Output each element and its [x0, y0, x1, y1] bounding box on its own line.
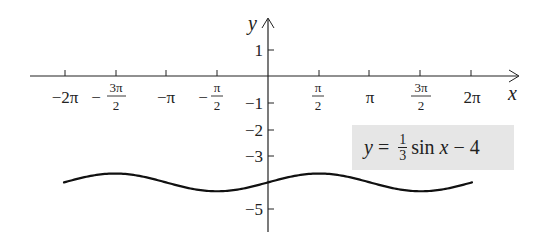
equation-y: y [364, 136, 373, 159]
y-tick-label: −3 [245, 147, 263, 166]
y-tick-label: −1 [245, 94, 263, 113]
x-tick-label: − [91, 88, 101, 107]
x-tick-label-num: 3π [414, 80, 428, 95]
sine-graph: y x −2π − 3π 2 −π − π 2 π 2 π 3π 2 2π 1 … [0, 0, 551, 245]
equation-label: y = 1 3 sin x − 4 [364, 125, 480, 170]
equation-tail: − 4 [448, 136, 479, 159]
x-tick-label: −2π [52, 88, 79, 107]
equation-sin: sin [411, 136, 439, 159]
x-axis-label: x [507, 82, 517, 104]
x-tick-label: − [198, 88, 208, 107]
y-tick-label: −2 [245, 121, 263, 140]
equation-fraction: 1 3 [398, 132, 407, 163]
equation-equals: = [373, 136, 394, 159]
x-tick-label-num: 3π [109, 80, 123, 95]
x-tick-label-den: 2 [113, 98, 120, 113]
x-tick-label-den: 2 [418, 98, 425, 113]
y-tick-labels: 1 −1 −2 −3 −5 [245, 41, 263, 219]
fraction-denominator: 3 [399, 148, 406, 163]
x-tick-label: π [366, 88, 375, 107]
equation-label-box: y = 1 3 sin x − 4 [352, 125, 514, 170]
x-tick-label-num: π [214, 80, 221, 95]
x-tick-label-num: π [315, 80, 322, 95]
x-tick-label: −π [157, 88, 176, 107]
fraction-numerator: 1 [398, 132, 407, 148]
y-ticks [268, 50, 274, 209]
x-tick-labels: −2π − 3π 2 −π − π 2 π 2 π 3π 2 2π [52, 80, 481, 113]
y-tick-label: −5 [245, 200, 263, 219]
x-tick-label-den: 2 [315, 98, 322, 113]
equation-x: x [440, 136, 449, 159]
x-tick-label: 2π [463, 88, 481, 107]
y-axis-label: y [246, 12, 257, 35]
x-tick-label-den: 2 [214, 98, 221, 113]
y-tick-label: 1 [255, 41, 264, 60]
